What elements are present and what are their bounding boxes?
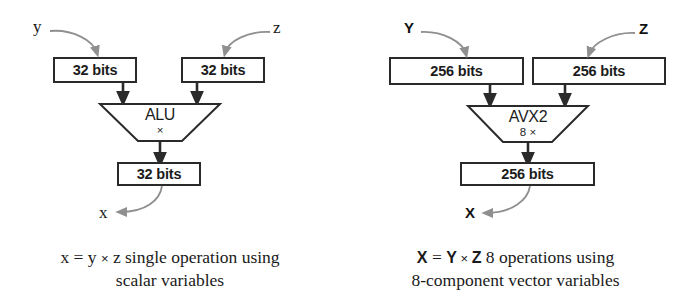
scalar-unit-operator: × — [120, 124, 200, 136]
vector-input-left-label: 256 bits — [390, 63, 523, 79]
scalar-output-var-x: x — [99, 203, 108, 223]
scalar-arrow-z-to-input — [225, 32, 270, 53]
scalar-arrow-y-to-input — [50, 31, 97, 53]
scalar-caption-line1: x = y × z single operation using — [60, 247, 279, 267]
scalar-caption-line2: scalar variables — [116, 270, 224, 290]
scalar-output-label: 32 bits — [118, 166, 200, 182]
vector-output-var-X: X — [465, 204, 475, 221]
scalar-arrow-output-to-x — [120, 186, 162, 212]
vector-unit-operator: 8 × — [488, 126, 568, 138]
vector-caption-line1: X = Y × Z 8 operations using — [417, 247, 614, 267]
vector-caption-post: 8 operations using — [481, 247, 614, 267]
vector-caption: X = Y × Z 8 operations using 8-component… — [353, 246, 678, 292]
vector-caption-var-X: X — [417, 249, 428, 266]
vector-caption-times: × — [457, 251, 472, 266]
vector-caption-var-Z: Z — [472, 249, 482, 266]
scalar-input-left-label: 32 bits — [54, 62, 136, 78]
scalar-input-var-z: z — [273, 18, 281, 38]
scalar-input-right-label: 32 bits — [182, 62, 264, 78]
vector-arrow-Y-to-input — [421, 32, 466, 54]
vector-input-right-label: 256 bits — [533, 63, 665, 79]
scalar-unit-name: ALU — [120, 106, 200, 124]
vector-caption-var-Y: Y — [446, 249, 457, 266]
scalar-caption-pre: x = y — [60, 247, 101, 267]
vector-arrow-output-to-X — [486, 186, 530, 213]
vector-unit-name: AVX2 — [488, 108, 568, 126]
vector-input-var-Z: Z — [639, 20, 648, 37]
scalar-input-var-y: y — [33, 17, 42, 37]
vector-arrow-Z-to-input — [589, 33, 635, 54]
vector-caption-line2: 8-component vector variables — [412, 270, 620, 290]
vector-caption-eq: = — [428, 247, 447, 267]
vector-output-label: 256 bits — [461, 166, 594, 182]
scalar-caption-times: × — [101, 251, 109, 266]
scalar-caption-post: z single operation using — [109, 247, 280, 267]
vector-input-var-Y: Y — [404, 19, 414, 36]
scalar-caption: x = y × z single operation using scalar … — [10, 246, 330, 292]
figure-root: 32 bits 32 bits ALU × 32 bits y z x x = … — [0, 0, 683, 308]
